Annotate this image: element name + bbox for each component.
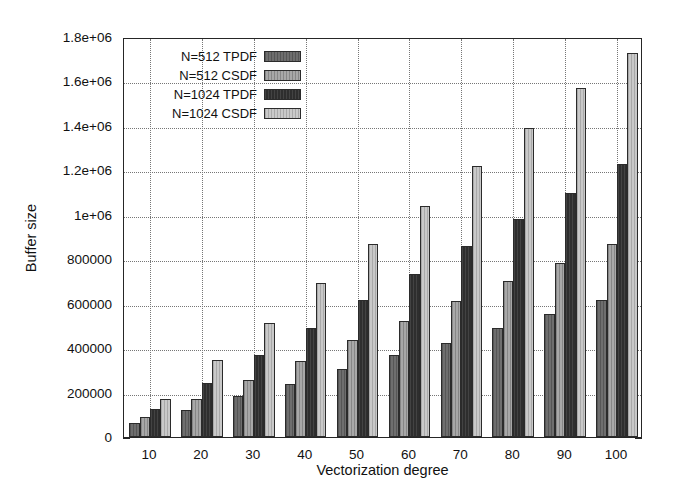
legend-item: N=512 CSDF [137, 66, 301, 85]
bar [285, 384, 295, 437]
legend-label: N=512 CSDF [179, 69, 257, 82]
bar [461, 246, 471, 437]
y-axis-tick-label: 1.6e+06 [0, 75, 112, 89]
bar [389, 355, 399, 437]
bar [368, 244, 378, 437]
bar [409, 274, 419, 437]
y-axis-tick-mark [123, 438, 130, 439]
bar [140, 417, 150, 437]
bar [555, 263, 565, 437]
y-axis-tick-label: 1.8e+06 [0, 31, 112, 45]
bar [524, 128, 534, 437]
bar [451, 301, 461, 437]
bar [129, 423, 139, 437]
bar [191, 399, 201, 437]
y-axis-tick-label: 800000 [0, 253, 112, 267]
bar [503, 281, 513, 437]
bar [212, 360, 222, 437]
bar [316, 283, 326, 437]
bar [441, 343, 451, 437]
legend-item: N=1024 TPDF [137, 85, 301, 104]
y-axis-tick-mark [635, 438, 642, 439]
bar [254, 355, 264, 437]
legend-item: N=512 TPDF [137, 47, 301, 66]
legend-swatch [264, 89, 301, 100]
legend-label: N=1024 CSDF [172, 107, 257, 120]
bar [202, 383, 212, 437]
legend-item: N=1024 CSDF [137, 104, 301, 123]
bar [295, 361, 305, 437]
legend-label: N=512 TPDF [181, 50, 257, 63]
bar [347, 340, 357, 437]
bar [492, 328, 502, 437]
bar [150, 409, 160, 437]
y-axis-tick-label: 400000 [0, 342, 112, 356]
bar [264, 323, 274, 437]
y-axis-title: Buffer size [23, 188, 39, 288]
bar [420, 206, 430, 437]
bar [513, 219, 523, 437]
legend-label: N=1024 TPDF [174, 88, 257, 101]
bar [233, 396, 243, 437]
bar [565, 193, 575, 437]
bar [576, 88, 586, 437]
y-axis-tick-label: 0 [0, 431, 112, 445]
bar [243, 380, 253, 437]
y-axis-tick-label: 1.2e+06 [0, 164, 112, 178]
legend-swatch [264, 108, 301, 119]
bar [607, 244, 617, 437]
y-axis-tick-label: 1.4e+06 [0, 120, 112, 134]
x-axis-title: Vectorization degree [123, 462, 642, 478]
y-axis-tick-label: 200000 [0, 387, 112, 401]
bar [617, 164, 627, 437]
y-axis-tick-label: 1e+06 [0, 209, 112, 223]
bar [358, 300, 368, 437]
legend-swatch [264, 70, 301, 81]
bar [627, 53, 637, 437]
bar [544, 314, 554, 437]
bar [306, 328, 316, 437]
bar [596, 300, 606, 437]
bar [160, 399, 170, 437]
legend-swatch [264, 51, 301, 62]
x-axis-tick-label: 100 [586, 448, 646, 462]
bar [472, 166, 482, 437]
y-axis-tick-label: 600000 [0, 298, 112, 312]
bar [181, 410, 191, 437]
chart-legend: N=512 TPDFN=512 CSDFN=1024 TPDFN=1024 CS… [137, 47, 301, 123]
bar [399, 321, 409, 437]
bar [337, 369, 347, 437]
bar-chart-figure: Buffer size Vectorization degree 0200000… [0, 0, 674, 495]
